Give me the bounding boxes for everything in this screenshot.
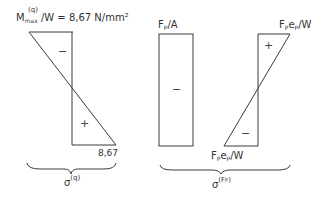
label-e: e	[220, 150, 226, 161]
left-brace	[27, 163, 116, 174]
left-top-label: Mmax(q) /W = 8,67 N/mm²	[16, 13, 129, 23]
label-sub-p: P	[164, 24, 168, 31]
left-stress-triangles	[29, 32, 116, 145]
label-f: F	[158, 19, 164, 30]
label-rest: /W	[230, 150, 243, 161]
left-lower-sign: +	[80, 118, 89, 129]
right-bottom-label: FPeP/W	[211, 151, 243, 161]
right-upper-sign: +	[264, 40, 273, 51]
label-sup-q: (q)	[28, 7, 38, 14]
sigma-sup: (FP)	[218, 176, 231, 184]
label-e: e	[288, 19, 294, 30]
left-bottom-value: 8,67	[98, 149, 118, 158]
label-rest: /W = 8,67 N/mm²	[41, 12, 129, 23]
label-rest: /A	[167, 19, 177, 30]
right-brace	[160, 165, 290, 174]
middle-top-label: FP/A	[158, 20, 178, 30]
right-top-label: FPeP/W	[279, 20, 311, 30]
right-brace-label: σ(FP)	[212, 180, 231, 190]
label-f: F	[211, 150, 217, 161]
right-lower-sign: −	[241, 128, 250, 139]
label-rest: /W	[298, 19, 311, 30]
label-sub-p: P	[295, 24, 299, 31]
middle-sign: −	[172, 84, 181, 95]
label-sub-p: P	[285, 24, 289, 31]
left-upper-sign: −	[58, 46, 67, 57]
label-m: M	[16, 12, 25, 23]
left-brace-label: σ(q)	[64, 178, 80, 188]
label-sub-max: max	[25, 17, 38, 24]
sup-end: )	[228, 176, 231, 184]
right-stress-triangles	[224, 34, 290, 146]
label-f: F	[279, 19, 285, 30]
sigma-sup: (q)	[70, 174, 80, 182]
label-sub-p: P	[227, 155, 231, 162]
label-sub-p: P	[217, 155, 221, 162]
